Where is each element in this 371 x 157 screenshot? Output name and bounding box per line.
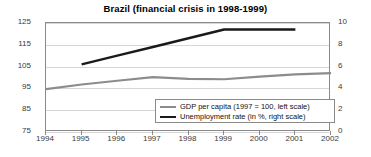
x-axis-tick-label: 2002 bbox=[310, 134, 350, 143]
series-line-unemployment-rate bbox=[82, 30, 296, 65]
y-axis-right-tick-label: 4 bbox=[338, 82, 364, 91]
chart-container: Brazil (financial crisis in 1998-1999) 7… bbox=[0, 0, 371, 157]
x-axis-tick-label: 1996 bbox=[96, 134, 136, 143]
x-axis-tick-label: 1995 bbox=[61, 134, 101, 143]
y-axis-left-tick-label: 125 bbox=[1, 17, 31, 26]
legend-label-unemployment-rate: Unemployment rate (in %, right scale) bbox=[180, 112, 305, 122]
y-axis-left-tick-label: 85 bbox=[1, 104, 31, 113]
x-axis-tick-label: 1997 bbox=[132, 134, 172, 143]
legend-swatch-unemployment-rate bbox=[160, 116, 176, 119]
legend-swatch-gdp-per-capita bbox=[160, 106, 176, 109]
legend-item-gdp-per-capita: GDP per capita (1997 = 100, left scale) bbox=[160, 102, 330, 112]
y-axis-left-tick-label: 105 bbox=[1, 61, 31, 70]
chart-title: Brazil (financial crisis in 1998-1999) bbox=[0, 3, 371, 14]
x-axis-tick-label: 2000 bbox=[239, 134, 279, 143]
legend-item-unemployment-rate: Unemployment rate (in %, right scale) bbox=[160, 112, 330, 122]
y-axis-left-tick-label: 95 bbox=[1, 82, 31, 91]
y-axis-left-tick-label: 115 bbox=[1, 39, 31, 48]
x-axis-tick-label: 1999 bbox=[203, 134, 243, 143]
chart-legend: GDP per capita (1997 = 100, left scale) … bbox=[155, 99, 335, 123]
y-axis-right-tick-label: 10 bbox=[338, 17, 364, 26]
x-axis-tick-label: 1994 bbox=[25, 134, 65, 143]
legend-label-gdp-per-capita: GDP per capita (1997 = 100, left scale) bbox=[180, 102, 310, 112]
y-axis-right-tick-label: 6 bbox=[338, 61, 364, 70]
y-axis-right-tick-label: 2 bbox=[338, 104, 364, 113]
x-axis-tick-label: 2001 bbox=[274, 134, 314, 143]
y-axis-right-tick-label: 8 bbox=[338, 39, 364, 48]
x-axis-tick-label: 1998 bbox=[168, 134, 208, 143]
series-line-gdp-per-capita bbox=[46, 73, 331, 89]
